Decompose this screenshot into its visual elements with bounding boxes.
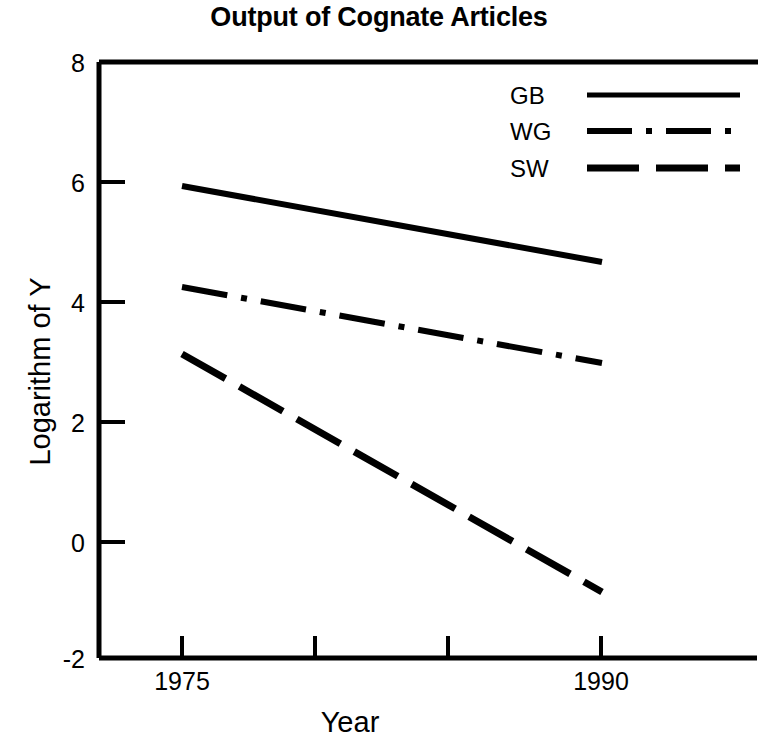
legend-label-sw: SW [510,155,549,183]
y-tick-label-6: 6 [25,169,85,198]
x-tick-label-1975: 1975 [122,667,242,696]
line-chart-plot [0,0,758,748]
series-gb [182,186,602,262]
legend-label-gb: GB [510,82,545,110]
y-tick-label-minus-2: -2 [25,645,85,674]
y-axis-label: Logarithm of Y [24,222,57,522]
series-wg [182,287,602,363]
y-tick-label-0: 0 [25,529,85,558]
legend-label-wg: WG [510,118,551,146]
series-sw [182,354,602,592]
x-axis-label: Year [0,706,700,739]
x-axis-ticks [182,636,601,658]
x-tick-label-1990: 1990 [541,667,661,696]
y-axis-ticks [99,182,125,542]
chart-page: Output of Cognate Articles [0,0,758,748]
y-tick-label-8: 8 [25,49,85,78]
